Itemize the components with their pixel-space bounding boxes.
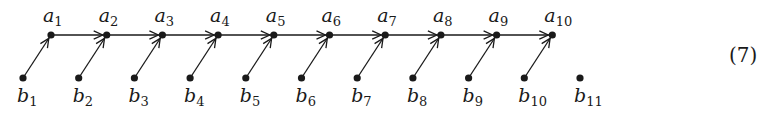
- node-a8: [437, 31, 444, 38]
- label-a6: a6: [322, 4, 342, 29]
- edge-b9-a9: [469, 35, 497, 78]
- node-a4: [215, 31, 222, 38]
- label-b11: b11: [574, 84, 603, 109]
- node-a5: [270, 31, 277, 38]
- arrowhead-icon: [40, 38, 48, 48]
- node-labels: a1a2a3a4a5a6a7a8a9a10b1b2b3b4b5b6b7b8b9b…: [17, 4, 603, 109]
- edge-b3-a3: [134, 35, 162, 78]
- node-b11: [576, 74, 583, 81]
- label-b7: b7: [351, 84, 371, 109]
- edge-a7-a8: [385, 31, 441, 39]
- label-b9: b9: [463, 84, 483, 109]
- edge-b2-a2: [79, 35, 107, 78]
- label-b6: b6: [296, 84, 316, 109]
- label-b3: b3: [128, 84, 148, 109]
- node-b10: [521, 74, 528, 81]
- arrowhead-icon: [375, 38, 383, 48]
- edge-b5-a5: [246, 35, 274, 78]
- node-b5: [242, 74, 249, 81]
- edge-b6-a6: [302, 35, 330, 78]
- label-b10: b10: [518, 84, 547, 109]
- edge-a6-a7: [330, 31, 386, 39]
- edge-b8-a8: [413, 35, 441, 78]
- node-b7: [354, 74, 361, 81]
- edge-b7-a7: [357, 35, 385, 78]
- label-b1: b1: [17, 84, 37, 109]
- edge-b4-a4: [190, 35, 218, 78]
- edge-a1-a2: [51, 31, 107, 39]
- edge-a4-a5: [218, 31, 274, 39]
- label-b8: b8: [407, 84, 427, 109]
- edge-a2-a3: [107, 31, 163, 39]
- arrowhead-icon: [542, 38, 550, 48]
- arrowhead-icon: [263, 38, 271, 48]
- arrowhead-icon: [152, 38, 160, 48]
- node-b9: [465, 74, 472, 81]
- node-a1: [47, 31, 54, 38]
- node-b8: [409, 74, 416, 81]
- arrowhead-icon: [319, 38, 327, 48]
- edge-a3-a4: [162, 31, 218, 39]
- equation-number: (7): [729, 43, 757, 67]
- label-a7: a7: [377, 4, 397, 29]
- arrowhead-icon: [207, 38, 215, 48]
- edge-a5-a6: [274, 31, 330, 39]
- label-a10: a10: [544, 4, 572, 29]
- label-a5: a5: [266, 4, 286, 29]
- label-b2: b2: [73, 84, 93, 109]
- arrowhead-icon: [486, 38, 494, 48]
- node-b1: [19, 74, 26, 81]
- node-a10: [549, 31, 556, 38]
- edge-a8-a9: [441, 31, 497, 39]
- node-a3: [159, 31, 166, 38]
- label-a9: a9: [489, 4, 509, 29]
- node-a2: [103, 31, 110, 38]
- label-a2: a2: [99, 4, 119, 29]
- node-a9: [493, 31, 500, 38]
- label-a1: a1: [43, 4, 63, 29]
- label-a8: a8: [433, 4, 453, 29]
- edge-b1-a1: [23, 35, 51, 78]
- label-b4: b4: [184, 84, 204, 109]
- node-b6: [298, 74, 305, 81]
- arrowhead-icon: [96, 38, 104, 48]
- label-a3: a3: [154, 4, 174, 29]
- label-a4: a4: [210, 4, 230, 29]
- node-b2: [75, 74, 82, 81]
- graph-diagram: a1a2a3a4a5a6a7a8a9a10b1b2b3b4b5b6b7b8b9b…: [0, 0, 773, 113]
- node-a6: [326, 31, 333, 38]
- label-b5: b5: [240, 84, 260, 109]
- node-b3: [131, 74, 138, 81]
- edge-b10-a10: [524, 35, 552, 78]
- node-b4: [187, 74, 194, 81]
- arrowhead-icon: [430, 38, 438, 48]
- edges: [23, 31, 552, 78]
- edge-a9-a10: [497, 31, 553, 39]
- node-a7: [382, 31, 389, 38]
